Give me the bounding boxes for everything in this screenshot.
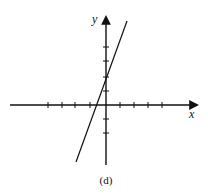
plotted-line	[76, 21, 127, 162]
y-axis-label: y	[91, 12, 98, 26]
x-axis-label: x	[188, 107, 195, 121]
chart-canvas: y x (d)	[0, 0, 208, 196]
figure-caption: (d)	[100, 174, 113, 187]
